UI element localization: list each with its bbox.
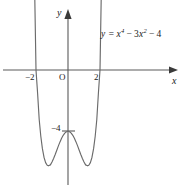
y-axis-label: y: [57, 8, 61, 18]
y-axis-arrowhead: [64, 9, 71, 19]
equation-term1-exponent: 4: [121, 27, 124, 34]
equation-annotation: y =x4−3x2−4: [101, 28, 161, 40]
equation-minus-2: −: [149, 29, 155, 39]
y-tick-label-neg-four: −4: [51, 124, 61, 133]
equation-constant: 4: [156, 29, 161, 39]
x-tick-label-two: 2: [94, 73, 99, 82]
x-tick-label-neg-two: −2: [25, 73, 35, 82]
equation-term2-exponent: 2: [143, 27, 146, 34]
x-axis-arrowhead: [169, 67, 178, 74]
origin-label: O: [59, 73, 66, 82]
x-axis-label: x: [172, 76, 176, 86]
function-graph-figure: y x O −2 2 −4 y =x4−3x2−4: [0, 0, 185, 189]
y-axis: [64, 9, 71, 185]
equation-lhs: y =: [101, 29, 115, 39]
equation-minus-1: −: [126, 29, 132, 39]
